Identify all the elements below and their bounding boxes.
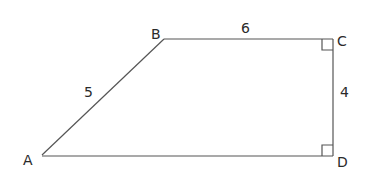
right-angle-marker-c (322, 39, 333, 50)
side-label-cd: 4 (340, 84, 349, 100)
right-angle-marker-d (322, 145, 333, 156)
vertex-label-a: A (23, 152, 33, 168)
vertex-label-b: B (151, 26, 161, 42)
side-label-bc: 6 (241, 20, 250, 36)
vertex-label-d: D (337, 154, 348, 170)
side-label-ab: 5 (84, 84, 93, 100)
side-ab (42, 39, 164, 155)
trapezoid-diagram: A B C D 5 6 4 (0, 0, 369, 179)
vertex-label-c: C (337, 33, 347, 49)
